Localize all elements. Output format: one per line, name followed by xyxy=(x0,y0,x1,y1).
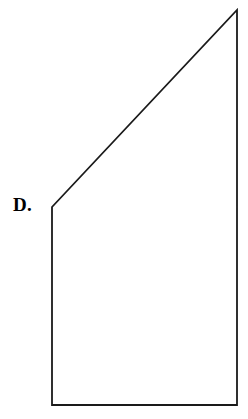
figure-label-d: D. xyxy=(13,195,32,214)
geometry-figure-canvas xyxy=(0,0,248,419)
